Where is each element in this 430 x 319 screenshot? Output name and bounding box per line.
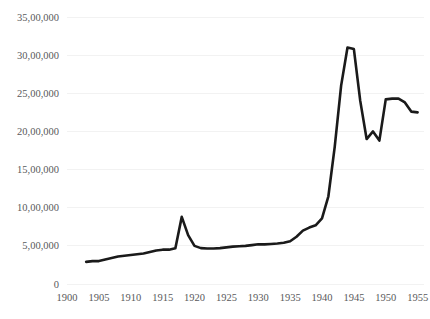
gridlines-group — [67, 17, 424, 284]
y-tick-label: 10,00,000 — [17, 202, 59, 213]
chart-canvas: 05,00,00010,00,00015,00,00020,00,00025,0… — [0, 0, 430, 319]
x-tick-label: 1920 — [184, 292, 205, 303]
y-axis-tick-labels: 05,00,00010,00,00015,00,00020,00,00025,0… — [17, 12, 59, 290]
series-line-0 — [86, 48, 418, 262]
x-tick-label: 1950 — [375, 292, 396, 303]
x-tick-label: 1925 — [216, 292, 237, 303]
x-tick-label: 1900 — [57, 292, 78, 303]
y-tick-label: 25,00,000 — [17, 88, 59, 99]
y-tick-label: 20,00,000 — [17, 126, 59, 137]
x-tick-label: 1910 — [120, 292, 141, 303]
y-tick-label: 5,00,000 — [22, 240, 59, 251]
x-tick-label: 1930 — [248, 292, 269, 303]
x-tick-label: 1935 — [280, 292, 301, 303]
y-tick-label: 35,00,000 — [17, 12, 59, 23]
x-tick-label: 1905 — [88, 292, 109, 303]
x-axis-tick-labels: 1900190519101915192019251930193519401945… — [57, 292, 429, 303]
line-chart: 05,00,00010,00,00015,00,00020,00,00025,0… — [0, 0, 430, 319]
y-tick-label: 15,00,000 — [17, 164, 59, 175]
x-tick-label: 1955 — [407, 292, 428, 303]
data-series-group — [86, 48, 418, 262]
x-tick-label: 1945 — [343, 292, 364, 303]
y-tick-label: 30,00,000 — [17, 50, 59, 61]
x-tick-label: 1940 — [312, 292, 333, 303]
y-tick-label: 0 — [54, 279, 59, 290]
x-tick-label: 1915 — [152, 292, 173, 303]
